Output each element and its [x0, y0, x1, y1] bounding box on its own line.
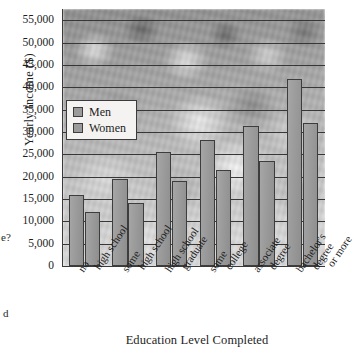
y-axis-tick-55000: 55,000 — [22, 14, 54, 26]
bar-men-5 — [287, 79, 303, 266]
y-axis-tick-30000: 30,000 — [22, 126, 54, 138]
y-axis-tick-25000: 25,000 — [22, 149, 54, 161]
y-axis-tick-35000: 35,000 — [22, 104, 54, 116]
bar-men-0 — [69, 195, 85, 266]
legend-item-men: Men — [73, 105, 126, 119]
y-axis-tick-15000: 15,000 — [22, 193, 54, 205]
legend-label-women: Women — [89, 122, 126, 134]
y-axis-tick-10000: 10,000 — [22, 216, 54, 228]
legend-swatch-women — [73, 123, 83, 133]
x-axis-tick-labels: nohigh schoolsomehigh schoolhigh schoolg… — [62, 266, 324, 336]
y-axis-tick-0: 0 — [48, 260, 54, 272]
y-axis-tick-5000: 5,000 — [28, 238, 54, 250]
y-axis-tick-50000: 50,000 — [22, 37, 54, 49]
y-axis-tick-40000: 40,000 — [22, 81, 54, 93]
y-axis-tick-20000: 20,000 — [22, 171, 54, 183]
legend-label-men: Men — [89, 106, 111, 118]
legend-swatch-men — [73, 107, 83, 117]
legend-item-women: Women — [73, 121, 126, 135]
y-axis-tick-45000: 45,000 — [22, 59, 54, 71]
y-axis-tick-labels: 05,00010,00015,00020,00025,00030,00035,0… — [0, 0, 60, 355]
chart-legend: Men Women — [66, 100, 137, 140]
x-axis-title: Education Level Completed — [0, 333, 332, 348]
